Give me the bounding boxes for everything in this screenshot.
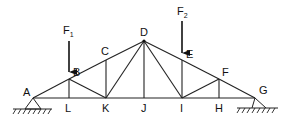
member-IF [182, 79, 219, 98]
support-A [13, 98, 52, 114]
member-BK [69, 79, 106, 98]
force-F1-subscript: 1 [70, 31, 74, 38]
member-EF [182, 60, 219, 79]
member-DI [144, 41, 182, 98]
member-AB [33, 79, 69, 98]
node-label-J: J [141, 102, 147, 114]
member-FG [219, 79, 255, 98]
node-label-L: L [65, 102, 71, 114]
support-G [237, 98, 278, 113]
force-F1: F1 [63, 24, 74, 72]
joint-D [142, 39, 145, 42]
member-KD [106, 41, 144, 98]
svg-text:F2: F2 [177, 5, 188, 19]
node-label-K: K [102, 102, 110, 114]
node-label-F: F [222, 66, 229, 78]
node-label-E: E [186, 48, 193, 60]
node-labels: A B C D E F G H I J K L [23, 26, 268, 114]
svg-text:F1: F1 [63, 24, 74, 38]
truss-diagram: F1 F2 A B C D E F G H I J K L [0, 0, 293, 122]
node-label-B: B [73, 66, 80, 78]
force-F2: F2 [177, 5, 188, 53]
node-label-C: C [101, 45, 109, 57]
node-label-G: G [259, 84, 268, 96]
node-label-I: I [180, 102, 183, 114]
node-label-H: H [215, 102, 223, 114]
node-label-A: A [23, 86, 31, 98]
force-F2-subscript: 2 [184, 12, 188, 19]
node-label-D: D [140, 26, 148, 38]
